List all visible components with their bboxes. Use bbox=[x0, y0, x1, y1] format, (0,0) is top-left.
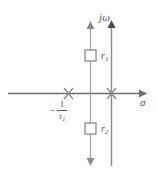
pole-zero-diagram: jω σ r1 r2 − 1 τ1 bbox=[0, 0, 157, 175]
root-locus-arrowhead-down bbox=[87, 158, 95, 166]
pole-minus-one-over-tau1-label: − 1 τ1 bbox=[50, 100, 67, 123]
root-locus-arrowhead-up bbox=[87, 21, 95, 29]
sigma-axis-label: σ bbox=[140, 97, 145, 108]
root-marker-r2-label: r2 bbox=[101, 124, 108, 136]
pole-label-minus-sign: − bbox=[50, 106, 56, 117]
root-marker-r2-label-subscript: 2 bbox=[105, 128, 109, 136]
diagram-canvas bbox=[0, 0, 157, 175]
root-marker-r1-label-subscript: 1 bbox=[105, 55, 109, 63]
pole-label-fraction: 1 τ1 bbox=[57, 100, 68, 123]
pole-label-denominator-subscript: 1 bbox=[62, 115, 66, 123]
pole-label-denominator: τ1 bbox=[57, 111, 68, 123]
root-marker-r1-label: r1 bbox=[101, 51, 108, 63]
sigma-axis bbox=[8, 90, 147, 98]
pole-label-numerator: 1 bbox=[58, 100, 67, 110]
root-marker-r2 bbox=[85, 123, 96, 134]
jomega-axis-label: jω bbox=[99, 12, 110, 23]
root-marker-r1 bbox=[85, 50, 96, 61]
